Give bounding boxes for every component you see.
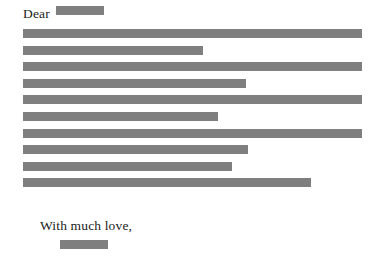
body-line-redaction (23, 145, 248, 154)
letter-body (23, 29, 363, 195)
body-line-redaction (23, 95, 362, 104)
body-line-redaction (23, 79, 246, 88)
salutation-label: Dear (23, 6, 50, 22)
closing: With much love, (40, 216, 132, 234)
recipient-name-redaction (56, 6, 104, 15)
salutation: Dear (23, 6, 104, 22)
body-line-redaction (23, 129, 362, 138)
body-line-redaction (23, 162, 232, 171)
body-line-redaction (23, 46, 203, 55)
body-line-redaction (23, 112, 218, 121)
document-page: Dear With much love, (0, 0, 379, 260)
body-line-redaction (23, 178, 311, 187)
body-line-redaction (23, 62, 362, 71)
body-line-redaction (23, 29, 362, 38)
signature-redaction (60, 240, 108, 249)
closing-label: With much love, (40, 218, 132, 233)
